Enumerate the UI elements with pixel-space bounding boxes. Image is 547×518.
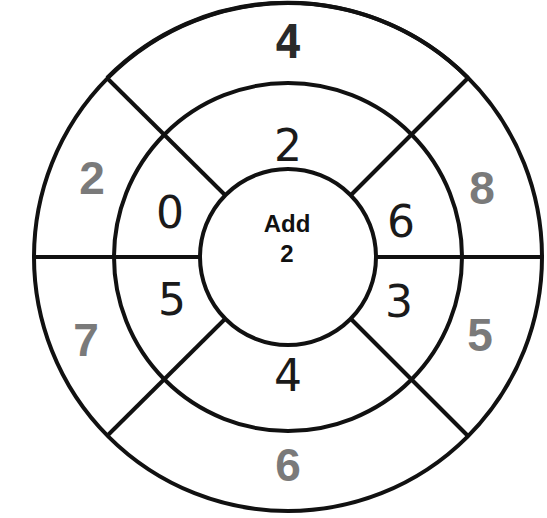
outer-value-lower-left: 7 (73, 317, 99, 363)
outer-value-upper-right: 8 (469, 165, 495, 211)
inner-value-top: 2 (274, 124, 302, 168)
center-operation-label: Add (264, 212, 311, 236)
outer-value-bottom: 6 (275, 442, 301, 488)
outer-value-upper-left: 2 (79, 155, 105, 201)
inner-value-lower-left: 5 (158, 278, 186, 322)
number-wheel-graphic (0, 0, 547, 518)
center-operand-label: 2 (280, 242, 293, 266)
inner-value-upper-left: 0 (156, 191, 184, 235)
inner-value-lower-right: 3 (385, 280, 413, 324)
inner-value-upper-right: 6 (387, 200, 415, 244)
outer-value-lower-right: 5 (467, 312, 493, 358)
inner-value-bottom: 4 (274, 354, 302, 398)
outer-value-top: 4 (274, 19, 302, 65)
